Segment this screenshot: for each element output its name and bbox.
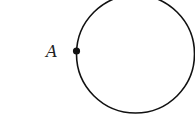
point-a-label: A: [44, 42, 58, 61]
circle: [77, 0, 195, 113]
circle-diagram: A: [0, 0, 195, 122]
point-a: [73, 47, 80, 54]
